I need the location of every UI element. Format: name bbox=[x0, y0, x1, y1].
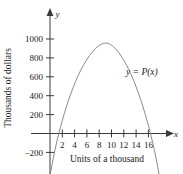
x-tick-label: 14 bbox=[132, 140, 142, 150]
x-tick-label: 6 bbox=[85, 140, 90, 150]
y-tick-label: 800 bbox=[30, 53, 44, 63]
plot-area: 2 4 6 8 10 12 14 16 200 400 600 800 1000… bbox=[0, 0, 183, 174]
y-tick-label: 600 bbox=[30, 72, 44, 82]
parabola-profit-figure: 2 4 6 8 10 12 14 16 200 400 600 800 1000… bbox=[0, 0, 183, 174]
y-tick-label: 1000 bbox=[25, 34, 44, 44]
x-axis-tick-labels: 2 4 6 8 10 12 14 16 bbox=[60, 140, 153, 150]
curve-equation-label: y = P(x) bbox=[125, 67, 158, 78]
y-tick-label: 200 bbox=[30, 110, 44, 120]
y-axis-tick-labels: 200 400 600 800 1000 −200 bbox=[24, 34, 43, 157]
y-axis-caption: Thousands of dollars bbox=[3, 48, 13, 128]
y-tick-label: −200 bbox=[24, 148, 43, 158]
x-axis-arrow-icon bbox=[166, 130, 174, 137]
x-tick-label: 4 bbox=[72, 140, 77, 150]
y-tick-label: 400 bbox=[30, 91, 44, 101]
x-axis-caption: Units of a thousand bbox=[70, 154, 144, 164]
y-axis-variable-label: y bbox=[55, 9, 60, 19]
x-axis-variable-label: x bbox=[173, 129, 178, 139]
y-axis-arrow-icon bbox=[47, 8, 54, 16]
x-tick-label: 10 bbox=[107, 140, 117, 150]
x-tick-label: 8 bbox=[97, 140, 102, 150]
y-axis bbox=[47, 8, 54, 174]
x-tick-label: 12 bbox=[119, 140, 128, 150]
x-tick-label: 2 bbox=[60, 140, 65, 150]
x-axis bbox=[31, 130, 174, 137]
